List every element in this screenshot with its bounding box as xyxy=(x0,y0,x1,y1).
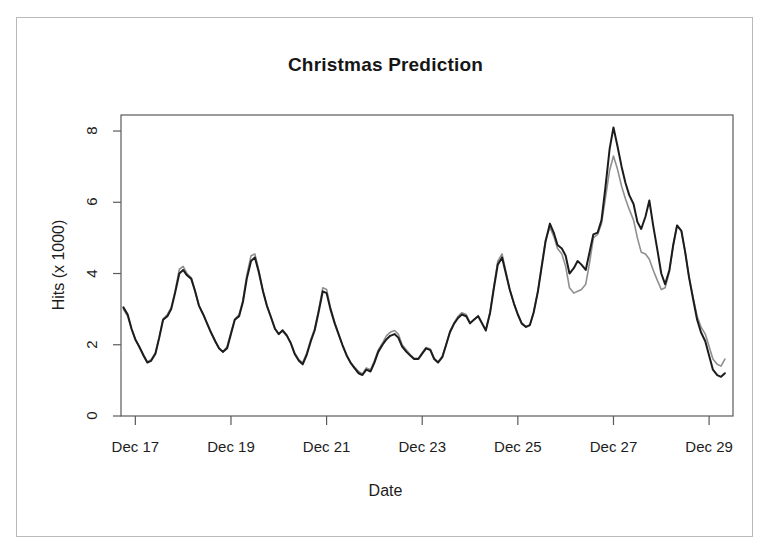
y-tick-label: 2 xyxy=(83,334,100,354)
x-tick-label: Dec 29 xyxy=(670,438,748,455)
x-tick-label: Dec 19 xyxy=(192,438,270,455)
y-tick-label: 0 xyxy=(83,406,100,426)
x-tick-label: Dec 25 xyxy=(479,438,557,455)
series-line-actual xyxy=(123,127,724,376)
series-layer xyxy=(123,127,724,376)
x-tick-label: Dec 17 xyxy=(96,438,174,455)
y-tick-label: 6 xyxy=(83,192,100,212)
x-axis-title: Date xyxy=(0,482,771,500)
y-axis-title: Hits (x 1000) xyxy=(50,165,68,365)
x-tick-label: Dec 27 xyxy=(574,438,652,455)
x-axis-ticks xyxy=(135,416,709,425)
figure-canvas: Christmas Prediction 02468 Dec 17Dec 19D… xyxy=(0,0,771,560)
y-tick-label: 8 xyxy=(83,121,100,141)
x-tick-label: Dec 21 xyxy=(288,438,366,455)
plot-area xyxy=(0,0,771,560)
series-line-predicted xyxy=(123,156,724,374)
plot-frame xyxy=(121,115,733,416)
y-axis-ticks xyxy=(113,131,121,416)
y-tick-label: 4 xyxy=(83,263,100,283)
x-tick-label: Dec 23 xyxy=(383,438,461,455)
